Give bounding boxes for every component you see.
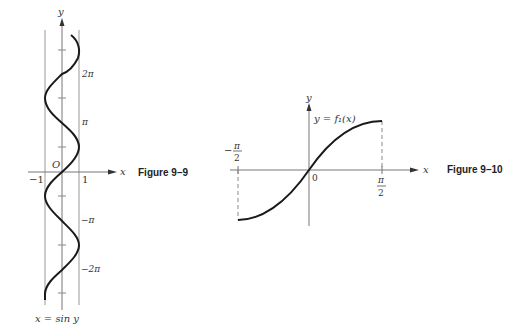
- svg-text:2: 2: [234, 153, 240, 163]
- y-axis-label: y: [57, 6, 64, 17]
- x-axis-label: x: [120, 166, 126, 177]
- x-axis-label: x: [423, 164, 429, 175]
- svg-text:π: π: [233, 141, 241, 151]
- x-tick-pos1-label: 1: [82, 174, 88, 185]
- svg-text:−: −: [224, 145, 232, 156]
- x-axis-arrow-icon: [108, 170, 117, 175]
- x-tick-neg1-label: −1: [29, 174, 44, 185]
- figure-caption: Figure 9–10: [447, 164, 503, 175]
- x-label-pi-over-2: π 2: [377, 175, 386, 198]
- y-label-2pi: 2π: [81, 69, 95, 79]
- figure-9-9: y x O −1 1 2π π −π −2π x = sin y Figure …: [28, 6, 188, 324]
- svg-text:2: 2: [378, 188, 384, 198]
- y-axis-arrow-icon: [60, 18, 65, 26]
- curve-label: y = f₁(x): [313, 113, 356, 124]
- origin-label: O: [52, 159, 60, 170]
- curve-label: x = sin y: [35, 313, 79, 324]
- textbook-page-figures: y x O −1 1 2π π −π −2π x = sin y Figure …: [0, 0, 532, 336]
- y-axis-label: y: [305, 92, 312, 103]
- origin-label: 0: [312, 173, 318, 183]
- y-axis-arrow-icon: [307, 103, 312, 111]
- y-label-neg-pi: −π: [81, 215, 96, 225]
- y-label-neg-2pi: −2π: [81, 264, 101, 274]
- figure-9-10: x y 0 y = f₁(x) − π 2 π 2 Figure 9–10: [224, 92, 503, 226]
- x-label-neg-pi-over-2: − π 2: [224, 141, 242, 163]
- y-label-pi: π: [81, 117, 89, 127]
- svg-text:π: π: [377, 175, 385, 185]
- figure-caption: Figure 9–9: [138, 167, 188, 178]
- x-axis-arrow-icon: [410, 168, 419, 173]
